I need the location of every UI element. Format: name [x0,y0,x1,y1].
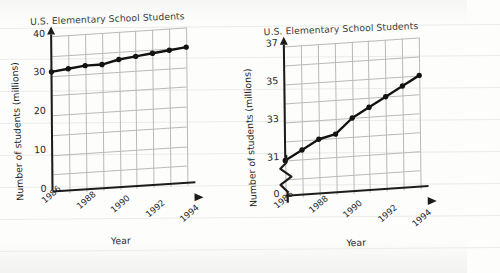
x-axis-arrow-icon [194,193,203,201]
y-tick-label: 30 [15,66,46,79]
plot-area [284,41,421,195]
chart-right-broken-scale: U.S. Elementary School Students Number o… [231,5,468,273]
y-tick-label: 37 [248,37,279,50]
y-axis-title: Number of students (millions) [241,68,259,207]
x-tick-label: 1990 [341,198,364,220]
y-axis-arrow-icon [280,37,288,45]
y-axis-title: Number of students (millions) [9,62,26,201]
x-tick-label: 1994 [178,202,201,224]
x-tick-label: 1994 [410,207,433,229]
y-tick-label: 31 [249,151,280,164]
x-tick-label: 1992 [376,202,399,224]
data-series-line [51,28,187,195]
chart-title: U.S. Elementary School Students [30,10,185,27]
x-tick-label: 1992 [144,198,167,220]
chart-title: U.S. Elementary School Students [263,20,418,37]
y-tick-label: 33 [248,113,279,126]
chart-left-full-scale: U.S. Elementary School Students Number o… [0,0,235,273]
x-axis-title: Year [346,237,366,249]
y-axis-arrow-icon [47,27,55,35]
y-tick-label: 20 [15,105,46,118]
y-tick-label: 10 [16,144,47,157]
x-tick-label: 1990 [109,193,132,215]
plot-area [51,31,187,190]
data-series-line [284,37,421,198]
x-axis-arrow-icon [428,197,437,205]
x-axis-title: Year [111,235,131,247]
y-tick-label: 40 [15,28,46,41]
y-tick-label: 35 [248,75,279,88]
